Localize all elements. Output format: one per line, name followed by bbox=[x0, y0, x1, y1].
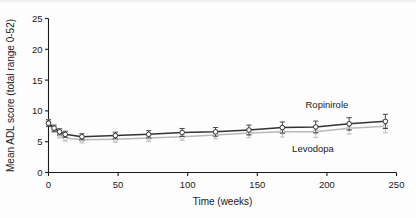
data-point-marker bbox=[383, 119, 388, 124]
data-point-marker bbox=[213, 130, 218, 135]
adl-score-line-chart: 0510152025050100150200250Time (weeks)Mea… bbox=[0, 0, 416, 218]
y-axis-tick-label-20: 20 bbox=[32, 44, 43, 55]
y-axis-tick-label-5: 5 bbox=[37, 136, 42, 147]
y-axis-tick-label-0: 0 bbox=[37, 167, 42, 178]
data-point-marker bbox=[313, 125, 318, 130]
data-point-marker bbox=[57, 130, 62, 135]
figure-panel: 0510152025050100150200250Time (weeks)Mea… bbox=[0, 0, 416, 218]
data-point-marker bbox=[347, 122, 352, 127]
x-axis-title: Time (weeks) bbox=[193, 196, 253, 207]
x-axis-tick-label-100: 100 bbox=[180, 179, 196, 190]
series-ropinirole bbox=[46, 114, 388, 140]
data-point-marker bbox=[180, 130, 185, 135]
data-point-marker bbox=[80, 134, 85, 139]
data-point-marker bbox=[280, 125, 285, 130]
x-axis-tick-label-200: 200 bbox=[319, 179, 335, 190]
y-axis-tick-label-15: 15 bbox=[32, 75, 43, 86]
data-point-marker bbox=[63, 132, 68, 137]
data-point-marker bbox=[52, 126, 57, 131]
series-annotation-levodopa: Levodopa bbox=[292, 143, 334, 154]
data-point-marker bbox=[113, 133, 118, 138]
x-axis-tick-label-150: 150 bbox=[249, 179, 265, 190]
y-axis-title: Mean ADL score (total range 0-52) bbox=[5, 19, 16, 172]
data-point-marker bbox=[247, 128, 252, 133]
figure-top-border bbox=[0, 0, 416, 3]
data-point-marker bbox=[46, 121, 51, 126]
y-axis-tick-label-25: 25 bbox=[32, 13, 43, 24]
x-axis-tick-label-50: 50 bbox=[113, 179, 124, 190]
y-axis-tick-label-10: 10 bbox=[32, 105, 43, 116]
x-axis-tick-label-250: 250 bbox=[389, 179, 405, 190]
x-axis-tick-label-0: 0 bbox=[46, 179, 51, 190]
series-annotation-ropinirole: Ropinirole bbox=[306, 99, 349, 110]
data-point-marker bbox=[146, 132, 151, 137]
